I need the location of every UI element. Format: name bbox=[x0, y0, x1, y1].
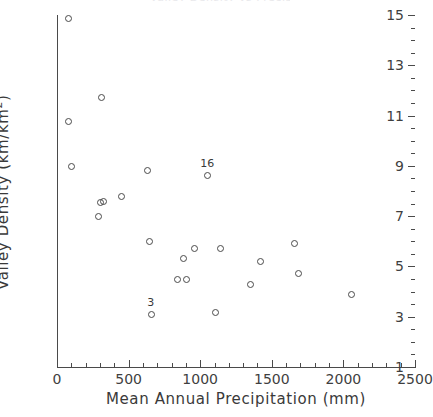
data-point bbox=[295, 270, 302, 277]
x-tick-minor bbox=[100, 363, 101, 367]
data-point bbox=[348, 291, 355, 298]
x-tick-minor bbox=[229, 363, 230, 367]
x-tick-minor bbox=[143, 363, 144, 367]
x-tick-minor bbox=[71, 363, 72, 367]
x-tick-label: 1000 bbox=[182, 371, 218, 387]
y-tick-minor bbox=[411, 53, 415, 54]
y-tick-minor bbox=[411, 279, 415, 280]
y-tick-minor bbox=[411, 241, 415, 242]
y-axis-title-main: Valley Density (km/km bbox=[0, 109, 12, 290]
data-point bbox=[65, 15, 72, 22]
y-tick-minor bbox=[411, 254, 415, 255]
y-tick-label: 9 bbox=[395, 158, 404, 174]
y-tick-major bbox=[408, 216, 415, 217]
x-tick-minor bbox=[257, 363, 258, 367]
y-axis-line bbox=[57, 15, 58, 368]
x-tick-major bbox=[272, 360, 273, 367]
plot-area: 13579111315 05001000150020002500 316 bbox=[57, 15, 415, 367]
y-tick-major bbox=[408, 367, 415, 368]
y-tick-label: 7 bbox=[395, 208, 404, 224]
y-tick-minor bbox=[411, 153, 415, 154]
data-point bbox=[180, 255, 187, 262]
y-tick-minor bbox=[411, 304, 415, 305]
x-tick-minor bbox=[114, 363, 115, 367]
y-tick-minor bbox=[411, 128, 415, 129]
y-tick-minor bbox=[411, 90, 415, 91]
data-point bbox=[144, 167, 151, 174]
y-axis-title-exponent: 2 bbox=[0, 101, 5, 108]
y-tick-label: 13 bbox=[386, 57, 404, 73]
data-point bbox=[191, 245, 198, 252]
y-tick-major bbox=[408, 65, 415, 66]
y-tick-minor bbox=[411, 191, 415, 192]
data-point bbox=[247, 281, 254, 288]
y-tick-minor bbox=[411, 204, 415, 205]
x-tick-major bbox=[129, 360, 130, 367]
x-tick-minor bbox=[315, 363, 316, 367]
x-tick-label: 2000 bbox=[326, 371, 362, 387]
data-point bbox=[257, 258, 264, 265]
data-point bbox=[174, 276, 181, 283]
x-tick-minor bbox=[358, 363, 359, 367]
x-tick-minor bbox=[300, 363, 301, 367]
y-tick-minor bbox=[411, 354, 415, 355]
x-axis-title: Mean Annual Precipitation (mm) bbox=[57, 390, 415, 408]
data-point bbox=[95, 213, 102, 220]
x-tick-major bbox=[200, 360, 201, 367]
y-tick-label: 5 bbox=[395, 258, 404, 274]
y-tick-major bbox=[408, 15, 415, 16]
x-tick-minor bbox=[86, 363, 87, 367]
y-tick-label: 15 bbox=[386, 7, 404, 23]
y-tick-minor bbox=[411, 292, 415, 293]
data-point bbox=[183, 276, 190, 283]
y-tick-label: 11 bbox=[386, 108, 404, 124]
y-tick-minor bbox=[411, 78, 415, 79]
y-axis-title: Valley Density (km/km2) bbox=[0, 60, 12, 290]
x-tick-label: 2500 bbox=[397, 371, 433, 387]
x-tick-label: 1500 bbox=[254, 371, 290, 387]
y-tick-major bbox=[408, 116, 415, 117]
data-point bbox=[217, 245, 224, 252]
data-point bbox=[146, 238, 153, 245]
y-tick-minor bbox=[411, 229, 415, 230]
y-tick-minor bbox=[411, 342, 415, 343]
x-tick-minor bbox=[172, 363, 173, 367]
data-point-label: 3 bbox=[147, 296, 154, 309]
data-point-label: 16 bbox=[200, 157, 214, 170]
y-axis-title-tail: ) bbox=[0, 95, 12, 101]
x-tick-major bbox=[415, 360, 416, 367]
data-point bbox=[68, 163, 75, 170]
data-point bbox=[65, 118, 72, 125]
x-tick-minor bbox=[372, 363, 373, 367]
data-point bbox=[291, 240, 298, 247]
x-tick-major bbox=[343, 360, 344, 367]
data-point bbox=[118, 193, 125, 200]
x-tick-label: 0 bbox=[53, 371, 62, 387]
y-tick-minor bbox=[411, 178, 415, 179]
x-tick-minor bbox=[243, 363, 244, 367]
y-tick-major bbox=[408, 317, 415, 318]
y-tick-minor bbox=[411, 141, 415, 142]
x-tick-minor bbox=[215, 363, 216, 367]
y-tick-major bbox=[408, 266, 415, 267]
y-tick-minor bbox=[411, 329, 415, 330]
y-tick-major bbox=[408, 166, 415, 167]
y-tick-minor bbox=[411, 28, 415, 29]
y-tick-minor bbox=[411, 103, 415, 104]
y-tick-minor bbox=[411, 40, 415, 41]
x-tick-minor bbox=[186, 363, 187, 367]
x-tick-minor bbox=[157, 363, 158, 367]
x-tick-minor bbox=[329, 363, 330, 367]
x-tick-label: 500 bbox=[115, 371, 142, 387]
data-point bbox=[98, 94, 105, 101]
y-tick-label: 3 bbox=[395, 309, 404, 325]
x-tick-minor bbox=[386, 363, 387, 367]
data-point bbox=[212, 309, 219, 316]
chart-title: Valley Density vs Precipitation bbox=[150, 0, 290, 1]
data-point bbox=[204, 172, 211, 179]
data-point bbox=[148, 311, 155, 318]
x-axis-line bbox=[57, 367, 416, 368]
x-tick-minor bbox=[286, 363, 287, 367]
x-tick-major bbox=[57, 360, 58, 367]
